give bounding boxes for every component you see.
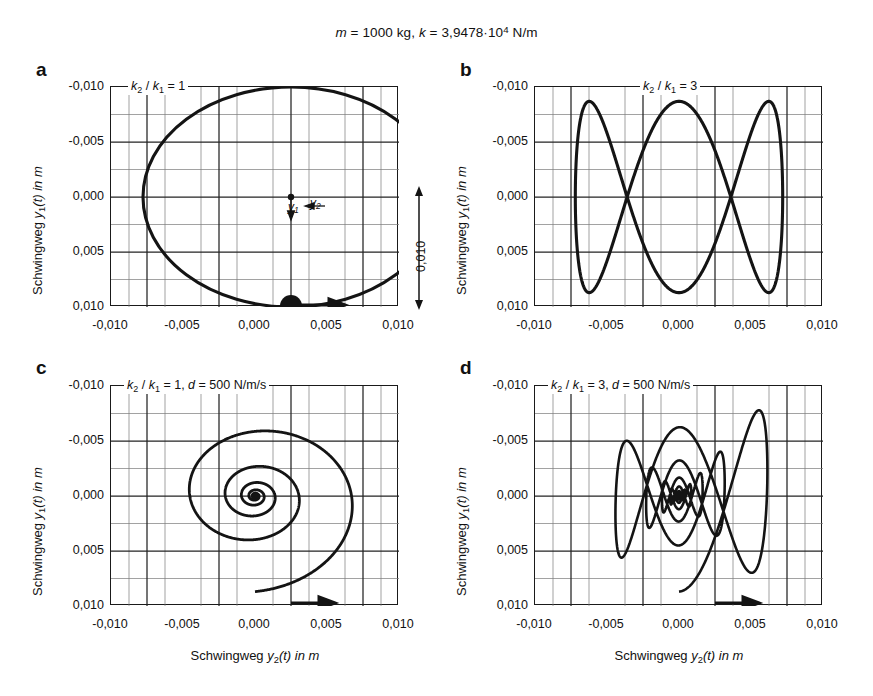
panel-b-note-slash: /: [654, 79, 664, 93]
ylabel-var: y: [30, 212, 45, 219]
panel-c-ytick-2: 0,000: [52, 488, 104, 502]
panel-c-y-axis-label: Schwingweg y1(t) in m: [30, 467, 47, 596]
panel-b-ytick-0: -0,010: [476, 79, 528, 93]
ylabel-c-prefix: Schwingweg: [30, 519, 45, 596]
panel-d-curve: [615, 410, 767, 591]
ylabel-sub: 1: [37, 207, 47, 212]
ylabel-d-var: y: [454, 513, 469, 520]
panel-c-ytick-3: 0,005: [52, 543, 104, 557]
xlabel-d-suffix: (t) in m: [703, 648, 743, 663]
panel-a-y-axis-label: Schwingweg y1(t) in m: [30, 166, 47, 295]
panel-c-note: k2 / k1 = 1, d = 500 N/m/s: [124, 379, 269, 394]
panel-d-ytick-4: 0,010: [476, 598, 528, 612]
panel-c-note-deq: = 500 N/m/s: [195, 378, 266, 392]
panel-b-ytick-2: 0,000: [476, 189, 528, 203]
panel-a-ytick-0: -0,010: [52, 79, 104, 93]
panel-c-letter: c: [36, 358, 47, 377]
ylabel-b-prefix: Schwingweg: [454, 218, 469, 295]
panel-a-xtick-3: 0,005: [310, 318, 341, 332]
panel-c-xtick-1: -0,005: [164, 617, 199, 631]
title-m-value: = 1000 kg,: [347, 25, 419, 40]
title-k-symbol: k: [419, 25, 426, 40]
panel-c-curve: [189, 431, 352, 592]
xlabel-c-prefix: Schwingweg: [191, 648, 268, 663]
panel-b-ytick-4: 0,010: [476, 299, 528, 313]
panel-b-letter: b: [460, 60, 472, 79]
panel-b-plot-area: [534, 86, 822, 306]
panel-b-major-grid: [535, 87, 823, 307]
panel-a-svg: [111, 87, 399, 307]
panel-d-x-axis-label: Schwingweg y2(t) in m: [574, 648, 784, 665]
panel-d-xtick-4: 0,010: [806, 617, 837, 631]
ylabel-b-var: y: [454, 212, 469, 219]
xlabel-c-suffix: (t) in m: [279, 648, 319, 663]
panel-d-xtick-1: -0,005: [588, 617, 623, 631]
ylabel-c-var: y: [30, 513, 45, 520]
panel-c-note-slash: /: [138, 378, 148, 392]
panel-d-ytick-0: -0,010: [476, 378, 528, 392]
panel-b-xtick-1: -0,005: [588, 318, 623, 332]
panel-d-note: k2 / k1 = 3, d = 500 N/m/s: [548, 379, 693, 394]
panel-d-y-axis-label: Schwingweg y1(t) in m: [454, 467, 471, 596]
panel-a-label-y2: y2: [310, 196, 321, 211]
panel-c-note-eq: = 1,: [160, 378, 188, 392]
panel-a-xtick-2: 0,000: [238, 318, 269, 332]
panel-b-xtick-0: -0,010: [516, 318, 551, 332]
panel-a-xtick-1: -0,005: [164, 318, 199, 332]
panel-d-ytick-2: 0,000: [476, 488, 528, 502]
panel-d-note-deq: = 500 N/m/s: [619, 378, 690, 392]
ylabel-c-sub: 1: [37, 508, 47, 513]
panel-c-ytick-1: -0,005: [52, 433, 104, 447]
panel-c-direction-arrow: [291, 597, 335, 606]
xlabel-d-prefix: Schwingweg: [615, 648, 692, 663]
ylabel-b-sub: 1: [461, 207, 471, 212]
panel-a-xtick-4: 0,010: [382, 318, 413, 332]
panel-c-svg: [111, 386, 399, 606]
panel-d-xtick-0: -0,010: [516, 617, 551, 631]
ylabel-d-prefix: Schwingweg: [454, 519, 469, 596]
panel-d-svg: [535, 386, 823, 606]
figure-title: m = 1000 kg, k = 3,9478·104 N/m: [0, 24, 873, 40]
panel-d-xtick-2: 0,000: [662, 617, 693, 631]
panel-d-ytick-1: -0,005: [476, 433, 528, 447]
panel-c-x-axis-label: Schwingweg y2(t) in m: [150, 648, 360, 665]
panel-b-xtick-4: 0,010: [806, 318, 837, 332]
title-base: 10: [488, 25, 503, 40]
panel-b-y-axis-label: Schwingweg y1(t) in m: [454, 166, 471, 295]
panel-d-note-eq: = 3,: [584, 378, 612, 392]
panel-a-xtick-0: -0,010: [92, 318, 127, 332]
label-y1-sub: 1: [294, 205, 299, 215]
panel-a-major-grid: [111, 87, 399, 307]
figure-root: m = 1000 kg, k = 3,9478·104 N/m a Schwin…: [0, 0, 873, 696]
panel-a-note: k2 / k1 = 1: [128, 80, 188, 95]
panel-a-ytick-4: 0,010: [52, 299, 104, 313]
panel-c-xtick-3: 0,005: [310, 617, 341, 631]
title-k-value: = 3,9478: [426, 25, 484, 40]
panel-a-amplitude-label: 0,010: [414, 241, 428, 272]
title-m-symbol: m: [335, 25, 346, 40]
ylabel-d-sub: 1: [461, 508, 471, 513]
panel-a-note-slash: /: [142, 79, 152, 93]
panel-d-letter: d: [460, 358, 472, 377]
panel-b-ytick-3: 0,005: [476, 244, 528, 258]
panel-c-plot-area: [110, 385, 398, 605]
panel-c-ytick-0: -0,010: [52, 378, 104, 392]
title-unit: N/m: [509, 25, 538, 40]
panel-a-note-eq: = 1: [164, 79, 185, 93]
panel-b-note-eq: = 3: [676, 79, 697, 93]
panel-d-note-slash: /: [562, 378, 572, 392]
panel-c-ytick-4: 0,010: [52, 598, 104, 612]
panel-c-xtick-0: -0,010: [92, 617, 127, 631]
panel-a-label-y1: y1: [288, 200, 299, 215]
panel-a-letter: a: [36, 60, 47, 79]
panel-c-xtick-4: 0,010: [382, 617, 413, 631]
panel-d-ytick-3: 0,005: [476, 543, 528, 557]
panel-b-ytick-1: -0,005: [476, 134, 528, 148]
panel-d-plot-area: [534, 385, 822, 605]
panel-b-xtick-3: 0,005: [734, 318, 765, 332]
ylabel-prefix: Schwingweg: [30, 218, 45, 295]
panel-a-ytick-3: 0,005: [52, 244, 104, 258]
panel-b-note: k2 / k1 = 3: [640, 80, 700, 95]
ylabel-suffix: (t) in m: [30, 166, 45, 206]
panel-b-xtick-2: 0,000: [662, 318, 693, 332]
